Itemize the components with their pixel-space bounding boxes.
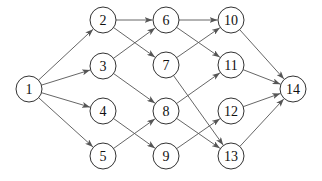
node-6: 6 xyxy=(153,7,179,33)
edge-1-to-3 xyxy=(41,70,90,85)
edge-13-to-14 xyxy=(240,99,284,147)
node-label: 4 xyxy=(100,104,107,119)
directed-graph-diagram: 1234567891011121314 xyxy=(0,0,322,181)
edge-3-to-8 xyxy=(114,74,155,104)
node-7: 7 xyxy=(153,52,179,78)
edge-1-to-2 xyxy=(39,29,94,80)
node-4: 4 xyxy=(90,98,116,124)
node-label: 1 xyxy=(26,82,33,97)
edge-11-to-14 xyxy=(243,70,280,84)
node-label: 12 xyxy=(224,104,238,119)
node-label: 13 xyxy=(224,149,238,164)
node-label: 14 xyxy=(286,82,300,97)
edge-10-to-14 xyxy=(240,30,284,79)
node-8: 8 xyxy=(153,98,179,124)
node-13: 13 xyxy=(218,143,244,169)
edges-layer xyxy=(39,20,284,149)
node-3: 3 xyxy=(90,53,116,79)
node-label: 5 xyxy=(100,149,107,164)
node-11: 11 xyxy=(218,52,244,78)
node-5: 5 xyxy=(90,143,116,169)
node-label: 11 xyxy=(224,58,237,73)
edge-1-to-4 xyxy=(41,93,90,107)
node-label: 2 xyxy=(100,13,107,28)
node-label: 7 xyxy=(163,58,170,73)
edge-7-to-13 xyxy=(174,76,224,145)
nodes-layer: 1234567891011121314 xyxy=(16,7,306,169)
node-2: 2 xyxy=(90,7,116,33)
edge-3-to-6 xyxy=(114,28,156,58)
node-label: 8 xyxy=(163,104,170,119)
edge-12-to-14 xyxy=(243,94,280,107)
node-label: 9 xyxy=(163,149,170,164)
edge-2-to-7 xyxy=(114,28,155,58)
node-10: 10 xyxy=(218,7,244,33)
node-9: 9 xyxy=(153,143,179,169)
edge-1-to-5 xyxy=(39,98,93,147)
node-label: 3 xyxy=(100,59,107,74)
node-14: 14 xyxy=(280,76,306,102)
node-label: 6 xyxy=(163,13,170,28)
node-label: 10 xyxy=(224,13,238,28)
node-12: 12 xyxy=(218,98,244,124)
node-1: 1 xyxy=(16,76,42,102)
edge-8-to-11 xyxy=(177,73,220,104)
